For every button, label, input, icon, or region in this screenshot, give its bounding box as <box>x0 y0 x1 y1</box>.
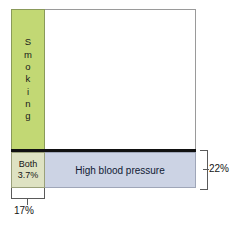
both-overlap-region: Both 3.7% <box>11 152 45 188</box>
smoking-letter: S <box>25 36 31 48</box>
smoking-percent-label: 17% <box>14 205 34 216</box>
both-value: 3.7% <box>18 170 39 181</box>
outer-population-box <box>44 9 196 150</box>
smoking-region: S m o k i n g <box>11 9 45 150</box>
smoking-letter: g <box>25 110 30 122</box>
high-blood-pressure-label: High blood pressure <box>75 165 165 176</box>
hbp-bracket <box>200 150 208 190</box>
risk-factor-diagram: S m o k i n g High blood pressure Both 3… <box>0 0 232 228</box>
both-label: Both <box>19 159 38 170</box>
smoking-bracket <box>11 188 45 199</box>
smoking-label: S m o k i n g <box>24 36 32 122</box>
hbp-percent-label: 22% <box>209 163 229 174</box>
smoking-letter: i <box>27 86 29 98</box>
smoking-letter: n <box>25 98 30 110</box>
smoking-letter: o <box>25 61 30 73</box>
smoking-letter: m <box>24 49 32 61</box>
high-blood-pressure-region: High blood pressure <box>44 152 196 188</box>
smoking-letter: k <box>26 73 31 85</box>
